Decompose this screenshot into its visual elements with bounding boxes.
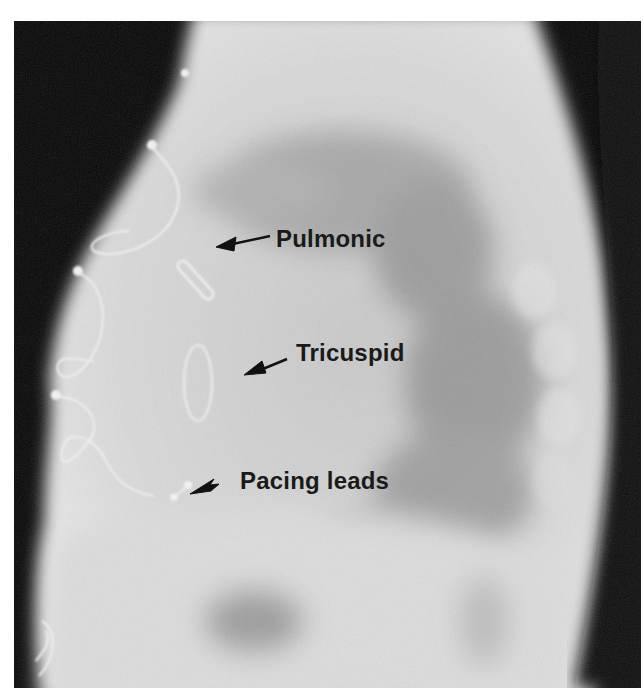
pulmonic-label: Pulmonic [276,226,386,252]
xray-image-frame: Pulmonic Tricuspid Pacing leads [14,21,641,688]
pacing-leads-label: Pacing leads [240,468,389,494]
tricuspid-label: Tricuspid [296,340,405,366]
